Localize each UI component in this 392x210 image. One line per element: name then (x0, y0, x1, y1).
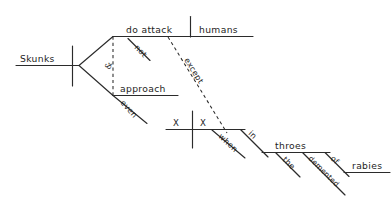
label-in-preposition: in (247, 129, 259, 141)
label-of-preposition: of (329, 154, 341, 166)
label-predicate-upper: do attack (126, 24, 173, 35)
label-elided-verb: X (200, 118, 206, 128)
label-when: when (217, 132, 240, 154)
label-conjunction: & (102, 61, 114, 71)
label-the-article: the (281, 155, 297, 171)
label-except-subordinator: except (182, 56, 205, 85)
sentence-diagram-canvas: Skunks & do attack not humans except app… (0, 0, 392, 210)
label-throes: throes (275, 140, 306, 151)
label-predicate-lower: approach (120, 83, 166, 94)
label-elided-subject: X (173, 118, 179, 128)
label-subject: Skunks (20, 53, 55, 64)
label-rabies: rabies (352, 160, 382, 171)
sentence-diagram: Skunks & do attack not humans except app… (0, 0, 392, 210)
fork-upper-branch (79, 37, 113, 66)
label-even-modifier: even (119, 98, 140, 120)
label-direct-object: humans (199, 24, 238, 35)
